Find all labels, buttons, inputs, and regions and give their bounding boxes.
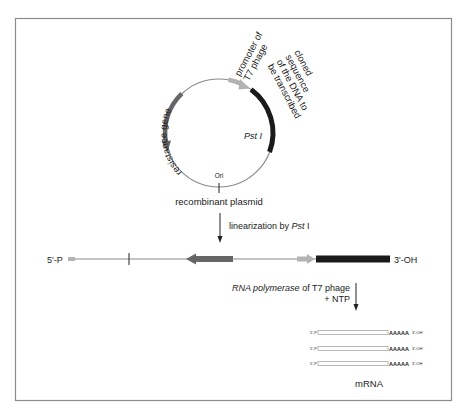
five-prime-label: 5'-P xyxy=(47,255,63,265)
mrna-strand xyxy=(318,362,388,366)
polya-tail: AAAAA xyxy=(389,361,409,367)
resistance-gene-label: resistance gene xyxy=(157,106,183,178)
linear-promoter-arrowhead-icon xyxy=(307,254,315,264)
mrna-3p-label: 3'-OH xyxy=(412,346,422,351)
linear-left-end-segment xyxy=(68,257,75,261)
transcription-step: RNA polymerase of T7 phage + NTP xyxy=(232,283,359,311)
mrna-transcript: 5'-P AAAAA 3'-OH xyxy=(310,346,422,352)
mrna-5p-label: 5'-P xyxy=(310,361,317,366)
mrna-3p-label: 3'-OH xyxy=(412,330,422,335)
recombinant-plasmid: Ori Pst I recombinant plasmid resistance… xyxy=(157,30,330,207)
mrna-transcript: 5'-P AAAAA 3'-OH xyxy=(310,330,422,336)
mrna-5p-label: 5'-P xyxy=(310,346,317,351)
mrna-title: mRNA xyxy=(355,378,384,389)
polya-tail: AAAAA xyxy=(389,346,409,352)
linearization-step: linearization by Pst I xyxy=(218,213,310,243)
mrna-strand xyxy=(318,331,388,335)
linear-promoter xyxy=(297,257,307,262)
ntp-label: + NTP xyxy=(324,294,350,304)
mrna-strand xyxy=(318,347,388,351)
figure-frame xyxy=(16,19,452,401)
pst-site-label: Pst I xyxy=(244,131,263,141)
linearization-label: linearization by Pst I xyxy=(229,221,310,231)
polya-tail: AAAAA xyxy=(389,330,409,336)
three-prime-label: 3'-OH xyxy=(394,255,417,265)
down-arrow-icon-2 xyxy=(354,304,359,311)
linear-cloned-sequence xyxy=(316,256,390,263)
mrna-transcripts: 5'-P AAAAA 3'-OH 5'-P AAAAA 3'-OH 5'-P A… xyxy=(310,330,422,390)
plasmid-transcription-diagram: Ori Pst I recombinant plasmid resistance… xyxy=(0,0,467,413)
mrna-3p-label: 3'-OH xyxy=(412,361,422,366)
linear-resistance-arrowhead-icon xyxy=(186,254,196,265)
mrna-5p-label: 5'-P xyxy=(310,330,317,335)
cloned-sequence-arc xyxy=(251,90,273,153)
polymerase-label: RNA polymerase of T7 phage xyxy=(232,283,350,293)
linear-resistance-gene xyxy=(196,256,233,262)
ori-label: Ori xyxy=(215,172,224,179)
linear-dna: 5'-P 3'-OH xyxy=(47,253,417,265)
plasmid-title: recombinant plasmid xyxy=(175,196,263,207)
down-arrow-icon xyxy=(218,236,223,243)
mrna-transcript: 5'-P AAAAA 3'-OH xyxy=(310,361,422,367)
